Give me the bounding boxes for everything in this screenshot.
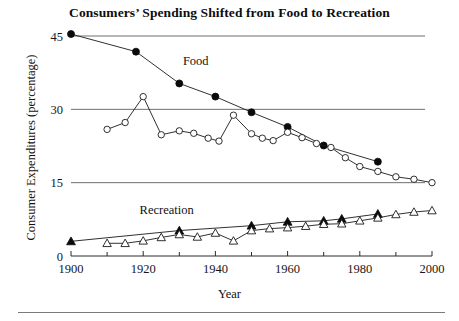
- chart-figure: Consumers’ Spending Shifted from Food to…: [0, 0, 459, 321]
- marker-open-triangle: [211, 229, 219, 236]
- marker-open-circle: [375, 168, 381, 174]
- gridlines: [71, 36, 425, 183]
- series-annotations: FoodRecreation: [140, 54, 210, 217]
- plot-area: 0153045 190019201940196019802000 FoodRec…: [0, 0, 459, 321]
- marker-open-circle: [299, 134, 305, 140]
- footer-rule: [18, 312, 445, 313]
- y-tick-label-45: 45: [51, 30, 64, 44]
- y-tick-label-15: 15: [51, 176, 64, 190]
- x-tick-label-1980: 1980: [347, 262, 372, 276]
- marker-open-circle: [191, 130, 197, 136]
- axis-ticks: [71, 251, 432, 256]
- marker-open-circle: [230, 112, 236, 118]
- marker-filled-circle: [176, 80, 183, 87]
- y-tick-label-30: 30: [51, 103, 64, 117]
- y-tick-labels: 0153045: [51, 30, 64, 264]
- marker-filled-circle: [374, 158, 381, 165]
- marker-open-circle: [411, 176, 417, 182]
- x-tick-label-1960: 1960: [275, 262, 300, 276]
- marker-open-circle: [205, 135, 211, 141]
- x-tick-label-1940: 1940: [203, 262, 228, 276]
- marker-open-circle: [284, 129, 290, 135]
- x-tick-label-2000: 2000: [420, 262, 445, 276]
- marker-open-circle: [216, 138, 222, 144]
- marker-open-circle: [140, 93, 146, 99]
- marker-open-circle: [248, 131, 254, 137]
- marker-open-circle: [158, 132, 164, 138]
- x-tick-label-1900: 1900: [59, 262, 84, 276]
- data-series: [67, 31, 437, 247]
- marker-open-circle: [328, 144, 334, 150]
- marker-filled-circle: [68, 31, 75, 38]
- annotation-recreation: Recreation: [140, 203, 195, 217]
- marker-open-circle: [270, 137, 276, 143]
- marker-open-circle: [357, 163, 363, 169]
- marker-open-circle: [342, 155, 348, 161]
- marker-open-triangle: [229, 237, 237, 244]
- x-tick-labels: 190019201940196019802000: [59, 262, 445, 276]
- series-line-1: [71, 34, 378, 162]
- marker-open-circle: [176, 128, 182, 134]
- series-1: [68, 31, 382, 166]
- marker-open-circle: [122, 119, 128, 125]
- x-tick-label-1920: 1920: [131, 262, 156, 276]
- marker-open-triangle: [428, 206, 436, 213]
- marker-open-circle: [104, 126, 110, 132]
- marker-filled-circle: [248, 109, 255, 116]
- marker-open-circle: [393, 174, 399, 180]
- marker-filled-circle: [132, 48, 139, 55]
- series-3: [67, 210, 383, 245]
- annotation-food: Food: [183, 54, 209, 68]
- series-2: [104, 93, 435, 185]
- marker-open-triangle: [103, 239, 111, 246]
- marker-open-circle: [429, 179, 435, 185]
- marker-open-circle: [259, 135, 265, 141]
- marker-open-circle: [313, 140, 319, 146]
- marker-filled-circle: [212, 93, 219, 100]
